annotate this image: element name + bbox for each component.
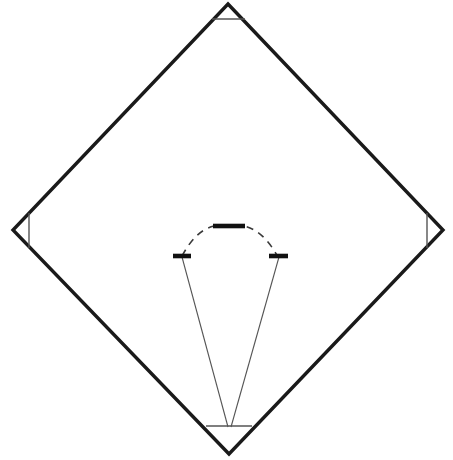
diagram-background — [0, 0, 453, 460]
field-diagram-container: Baseball Infield Diamond Diagram — [0, 0, 453, 460]
field-diagram-svg — [0, 0, 453, 460]
